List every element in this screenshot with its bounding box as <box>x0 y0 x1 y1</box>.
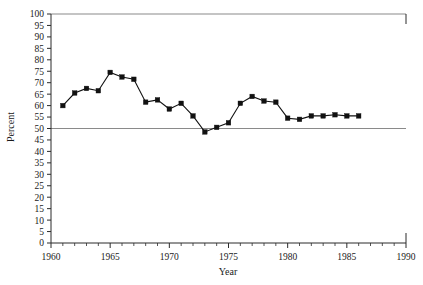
y-tick-label: 25 <box>35 181 45 191</box>
data-point-marker <box>84 86 89 91</box>
x-axis-title: Year <box>219 266 238 277</box>
y-tick-label: 40 <box>35 147 45 157</box>
y-tick-label: 100 <box>30 9 45 19</box>
data-point-marker <box>167 107 172 112</box>
data-point-marker <box>226 120 231 125</box>
x-tick-label: 1980 <box>278 252 297 262</box>
y-tick-label: 85 <box>35 44 45 54</box>
data-series-group <box>61 70 361 134</box>
x-tick-label: 1975 <box>219 252 238 262</box>
y-tick-label: 65 <box>35 90 45 100</box>
data-point-marker <box>155 98 160 103</box>
data-point-marker <box>333 112 338 117</box>
data-point-marker <box>108 70 113 75</box>
data-point-marker <box>309 114 314 119</box>
y-tick-label: 0 <box>39 238 44 248</box>
data-point-marker <box>297 117 302 122</box>
y-tick-label: 90 <box>35 32 45 42</box>
y-tick-label: 35 <box>35 158 45 168</box>
y-tick-label: 15 <box>35 204 45 214</box>
line-chart: 0510152025303540455055606570758085909510… <box>0 0 423 285</box>
y-axis-ticks-group: 0510152025303540455055606570758085909510… <box>30 9 51 248</box>
data-point-marker <box>356 114 361 119</box>
y-tick-label: 45 <box>35 135 45 145</box>
series-line-path <box>63 72 359 132</box>
y-tick-label: 10 <box>35 216 45 226</box>
y-tick-label: 5 <box>39 227 44 237</box>
data-point-marker <box>262 99 267 104</box>
data-point-marker <box>120 75 125 80</box>
y-tick-label: 70 <box>35 78 45 88</box>
chart-container: 0510152025303540455055606570758085909510… <box>0 0 423 285</box>
y-tick-label: 30 <box>35 170 45 180</box>
x-tick-label: 1985 <box>337 252 356 262</box>
data-point-marker <box>179 101 184 106</box>
x-tick-label: 1965 <box>101 252 120 262</box>
y-tick-label: 80 <box>35 55 45 65</box>
y-tick-label: 20 <box>35 193 45 203</box>
y-axis-title: Percent <box>5 112 16 142</box>
data-point-marker <box>143 100 148 105</box>
y-tick-label: 55 <box>35 112 45 122</box>
y-tick-label: 95 <box>35 21 45 31</box>
data-point-marker <box>285 116 290 121</box>
data-point-marker <box>191 114 196 119</box>
x-tick-label: 1990 <box>397 252 416 262</box>
y-tick-label: 75 <box>35 67 45 77</box>
y-tick-label: 60 <box>35 101 45 111</box>
data-point-marker <box>132 77 137 82</box>
data-point-marker <box>250 94 255 99</box>
data-point-marker <box>96 88 101 93</box>
data-point-marker <box>321 114 326 119</box>
x-tick-label: 1960 <box>42 252 61 262</box>
data-point-marker <box>72 91 77 96</box>
x-axis-ticks-group: 1960196519701975198019851990 <box>42 243 416 262</box>
data-point-marker <box>274 100 279 105</box>
y-tick-label: 50 <box>35 124 45 134</box>
data-point-marker <box>61 103 66 108</box>
data-point-marker <box>345 114 350 119</box>
data-point-marker <box>203 130 208 135</box>
data-point-marker <box>214 125 219 130</box>
data-point-marker <box>238 101 243 106</box>
x-tick-label: 1970 <box>160 252 179 262</box>
reference-lines-group <box>51 14 406 129</box>
